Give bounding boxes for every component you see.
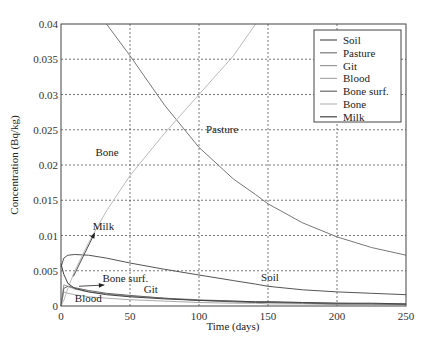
y-axis-ticks: 00.0050.010.0150.020.0250.030.0350.04 [33,18,58,312]
x-tick-label: 50 [125,310,137,322]
annotation-label: Git [144,283,158,295]
legend-entry: Soil [343,34,361,46]
legend-entry: Bone [343,98,366,110]
x-tick-label: 250 [398,310,415,322]
y-tick-label: 0.01 [39,230,58,242]
annotation-label: Milk [93,220,115,232]
y-tick-label: 0.035 [33,53,58,65]
annotation-label: Bone surf. [102,272,148,284]
legend: SoilPastureGitBloodBone surf.BoneMilk [314,30,401,123]
line-chart: 050100150200250 00.0050.010.0150.020.025… [0,0,431,353]
legend-entry: Milk [343,111,365,123]
y-tick-label: 0 [53,300,59,312]
y-tick-label: 0.04 [39,18,59,30]
legend-entry: Pasture [343,47,376,59]
annotation-label: Bone [96,146,119,158]
annotation-label: Blood [75,292,102,304]
x-tick-label: 200 [329,310,346,322]
annotations: PastureBoneMilkBone surf.GitSoilBlood [73,123,278,303]
x-axis-label: Time (days) [206,320,259,333]
y-tick-label: 0.005 [33,265,58,277]
legend-entry: Git [343,60,357,72]
x-tick-label: 0 [58,310,64,322]
annotation-label: Pasture [206,123,239,135]
annotation-label: Soil [261,271,279,283]
x-tick-label: 150 [260,310,277,322]
legend-entry: Bone surf. [343,85,389,97]
y-axis-label: Concentration (Bq/kg) [8,115,21,215]
y-tick-label: 0.03 [39,89,59,101]
x-tick-label: 100 [191,310,208,322]
y-tick-label: 0.02 [39,159,58,171]
legend-entry: Blood [343,72,370,84]
y-tick-label: 0.025 [33,124,58,136]
y-tick-label: 0.015 [33,194,58,206]
